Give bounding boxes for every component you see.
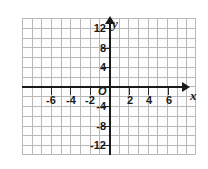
x-tick-label: -2 bbox=[85, 95, 95, 106]
y-tick-label: -4 bbox=[96, 101, 106, 112]
x-tick-label: -4 bbox=[66, 95, 76, 106]
origin-label: O bbox=[98, 86, 107, 97]
grid-right-border bbox=[195, 18, 196, 155]
y-tick-label: -8 bbox=[96, 121, 106, 132]
y-tick-label: 12 bbox=[94, 23, 106, 34]
page-margin-top bbox=[0, 0, 208, 14]
x-tick-label: 2 bbox=[127, 95, 133, 106]
coordinate-plane-figure: -6 -4 -2 2 4 6 12 8 4 -4 -8 -12 O x y bbox=[0, 0, 208, 169]
x-tick-label: -6 bbox=[46, 95, 56, 106]
y-axis-label: y bbox=[112, 17, 118, 30]
page-margin-left bbox=[0, 0, 16, 169]
y-axis-line bbox=[109, 21, 111, 155]
page-margin-bottom bbox=[0, 159, 208, 169]
y-tick-label: 8 bbox=[100, 43, 106, 54]
x-axis-label: x bbox=[190, 89, 197, 102]
x-tick-label: 6 bbox=[166, 95, 172, 106]
x-tick-label: 4 bbox=[146, 95, 152, 106]
y-tick-label: 4 bbox=[100, 62, 106, 73]
y-tick-label: -12 bbox=[90, 140, 106, 151]
x-axis-arrow-icon bbox=[182, 82, 190, 92]
